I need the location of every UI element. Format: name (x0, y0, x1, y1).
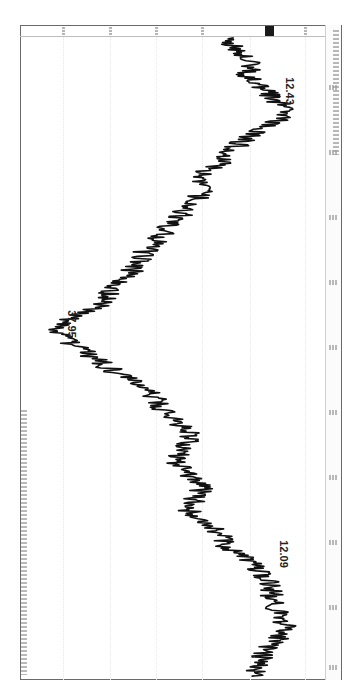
time-axis-tick (329, 410, 338, 415)
time-axis-tick (329, 540, 338, 545)
value-axis (20, 25, 330, 37)
value-axis-tick (151, 27, 161, 35)
time-axis-tick (329, 665, 338, 670)
annotation-low-2: 12.43 (284, 77, 296, 105)
time-axis-tick (329, 280, 338, 285)
time-axis-tick (329, 475, 338, 480)
price-line-plot (20, 37, 325, 677)
time-axis-tick (329, 605, 338, 610)
annotation-high: 37.95 (66, 310, 78, 338)
value-axis-tick (105, 27, 115, 35)
value-axis-tick (197, 27, 207, 35)
chart-credit-text (333, 30, 339, 155)
annotation-low-1: 12.09 (278, 540, 290, 568)
value-axis-tick (300, 27, 310, 35)
current-value-marker (265, 26, 274, 36)
time-axis-tick (329, 215, 338, 220)
value-axis-tick (58, 27, 68, 35)
time-axis-tick (329, 345, 338, 350)
